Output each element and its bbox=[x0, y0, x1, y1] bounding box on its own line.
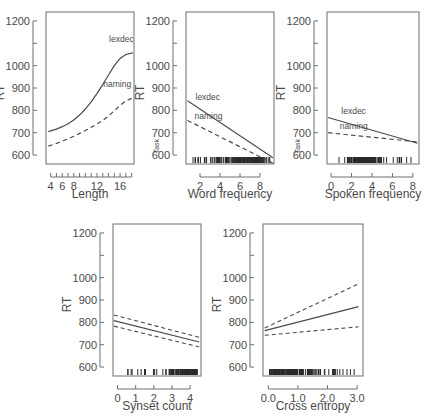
x-tick-label: 0.0 bbox=[261, 392, 276, 404]
y-tick-label: 1000 bbox=[73, 272, 97, 284]
partial-effects-figure: 60070080090010001200RT4681216Lengthlexde… bbox=[0, 0, 431, 420]
x-tick-label: 16 bbox=[114, 180, 126, 192]
group-label-task: Task bbox=[294, 138, 301, 153]
curve-label-naming: naming bbox=[340, 121, 368, 131]
x-tick-label: 6 bbox=[59, 180, 65, 192]
y-tick-label: 800 bbox=[79, 316, 97, 328]
y-tick-label: 600 bbox=[229, 361, 247, 373]
y-tick-label: 700 bbox=[12, 127, 30, 139]
rug-plot bbox=[339, 157, 411, 163]
y-axis: 60070080090010001200 bbox=[6, 15, 37, 161]
y-axis-label: RT bbox=[0, 84, 7, 100]
y-tick-label: 700 bbox=[152, 127, 170, 139]
y-tick-label: 800 bbox=[293, 104, 311, 116]
y-tick-label: 600 bbox=[79, 361, 97, 373]
y-tick-label: 900 bbox=[12, 82, 30, 94]
y-axis-label: RT bbox=[274, 84, 288, 100]
plot-box bbox=[263, 224, 363, 376]
x-axis-label: Synset count bbox=[122, 399, 192, 413]
y-tick-label: 800 bbox=[229, 316, 247, 328]
y-tick-label: 1200 bbox=[73, 227, 97, 239]
rug-plot bbox=[270, 369, 355, 375]
y-tick-label: 1000 bbox=[287, 60, 311, 72]
panel-spoken-frequency: 60070080090010001200RTTask02468Spoken fr… bbox=[281, 0, 431, 210]
series-line-lower-confidence-band bbox=[265, 327, 359, 335]
curve-label-lexdec: lexdec bbox=[341, 106, 366, 116]
x-tick-label: 4 bbox=[48, 180, 54, 192]
series-line-naming bbox=[48, 98, 133, 146]
series-line-upper-confidence-band bbox=[265, 284, 359, 328]
y-tick-label: 600 bbox=[12, 149, 30, 161]
y-axis-label: RT bbox=[60, 296, 74, 312]
panel-cross-entropy: 60070080090010001200RT0.01.02.03.0Cross … bbox=[205, 212, 380, 420]
y-axis: 60070080090010001200 bbox=[287, 15, 318, 161]
y-tick-label: 700 bbox=[79, 339, 97, 351]
series-line-naming bbox=[188, 120, 274, 163]
x-tick-label: 3.0 bbox=[349, 392, 364, 404]
x-axis-label: Word frequency bbox=[188, 187, 273, 201]
rug-plot bbox=[128, 369, 197, 375]
y-axis: 60070080090010001200 bbox=[223, 227, 254, 373]
panel-synset-count: 60070080090010001200RT01234Synset count bbox=[55, 212, 217, 420]
y-tick-label: 1200 bbox=[287, 15, 311, 27]
series-line-upper-confidence-band bbox=[114, 315, 199, 337]
plot-box bbox=[113, 224, 201, 376]
y-axis-label: RT bbox=[133, 84, 147, 100]
series-group bbox=[265, 284, 359, 335]
y-tick-label: 900 bbox=[293, 82, 311, 94]
group-label-task: Task bbox=[153, 138, 160, 153]
y-axis-label: RT bbox=[210, 296, 224, 312]
y-tick-label: 1200 bbox=[6, 15, 30, 27]
y-tick-label: 1000 bbox=[146, 60, 170, 72]
y-axis: 60070080090010001200 bbox=[73, 227, 104, 373]
x-axis-label: Length bbox=[72, 187, 109, 201]
y-tick-label: 700 bbox=[293, 127, 311, 139]
y-tick-label: 900 bbox=[152, 82, 170, 94]
series-line-lower-confidence-band bbox=[114, 326, 199, 347]
curve-label-lexdec: lexdec bbox=[109, 34, 134, 44]
series-line-fit bbox=[265, 307, 359, 331]
curve-label-naming: naming bbox=[103, 79, 131, 89]
y-tick-label: 900 bbox=[79, 294, 97, 306]
series-line-lexdec bbox=[188, 101, 274, 158]
y-tick-label: 800 bbox=[12, 104, 30, 116]
series-group bbox=[114, 315, 199, 347]
rug-plot bbox=[193, 157, 270, 163]
x-axis-label: Spoken frequency bbox=[325, 187, 422, 201]
x-tick-label: 0 bbox=[114, 392, 120, 404]
y-tick-label: 900 bbox=[229, 294, 247, 306]
y-tick-label: 700 bbox=[229, 339, 247, 351]
curve-label-naming: naming bbox=[195, 111, 223, 121]
y-tick-label: 1000 bbox=[223, 272, 247, 284]
panel-word-frequency: 60070080090010001200RTTask2468Word frequ… bbox=[140, 0, 290, 210]
x-axis-label: Cross entropy bbox=[276, 399, 351, 413]
series-line-lexdec bbox=[48, 53, 133, 132]
y-tick-label: 1000 bbox=[6, 60, 30, 72]
y-tick-label: 800 bbox=[152, 104, 170, 116]
series-line-fit bbox=[114, 321, 199, 342]
y-tick-label: 1200 bbox=[146, 15, 170, 27]
panel-length: 60070080090010001200RT4681216Lengthlexde… bbox=[0, 0, 148, 210]
y-axis: 60070080090010001200 bbox=[146, 15, 177, 161]
y-tick-label: 1200 bbox=[223, 227, 247, 239]
curve-label-lexdec: lexdec bbox=[196, 92, 221, 102]
series-group bbox=[48, 53, 133, 146]
series-line-naming bbox=[328, 133, 417, 142]
